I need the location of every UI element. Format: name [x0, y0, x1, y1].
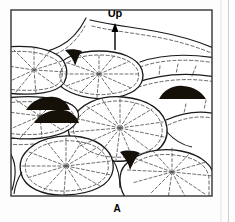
panel-label: A	[113, 203, 120, 214]
figure-container: Up A	[0, 0, 235, 222]
pillow-structure-diagram: Up A	[0, 0, 235, 222]
